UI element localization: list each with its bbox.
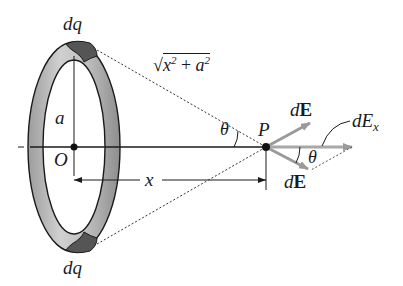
label-radius-a: a [55, 108, 65, 127]
label-point-P: P [258, 120, 270, 139]
dE-upper-E: E [300, 99, 313, 120]
hypotenuse-bottom [97, 147, 266, 244]
label-dE-lower: dE [284, 172, 306, 191]
label-origin-O: O [54, 150, 68, 169]
dE-lower-E: E [294, 171, 307, 192]
label-hypotenuse: √x2 + a2 [153, 55, 210, 74]
dE-lower-arrow [266, 147, 308, 169]
dE-upper-arrow [266, 123, 310, 147]
label-distance-x: x [145, 170, 153, 189]
label-dEx: dEx [352, 111, 379, 133]
hyp-a-exp: 2 [205, 54, 211, 66]
dEx-leader [322, 121, 350, 146]
theta-arc-left [234, 131, 238, 147]
dE-lower-d: d [284, 171, 294, 192]
origin-point [71, 144, 78, 151]
component-dotted [311, 147, 352, 170]
label-dq-bottom: dq [63, 258, 82, 277]
theta-arc-right [296, 147, 300, 163]
hyp-a: a [196, 55, 205, 75]
hyp-x: x [163, 55, 171, 75]
ring-field-diagram [0, 0, 403, 286]
dEx-d: d [352, 110, 362, 131]
dE-upper-d: d [290, 99, 300, 120]
label-theta-left: θ [220, 120, 229, 138]
hyp-plus: + [176, 55, 195, 75]
sqrt-symbol: √ [153, 55, 163, 75]
label-theta-right: θ [308, 148, 317, 166]
dEx-sub: x [373, 119, 379, 134]
label-dE-upper: dE [290, 100, 312, 119]
point-P [262, 143, 270, 151]
label-dq-top: dq [63, 14, 82, 33]
dEx-E: E [362, 110, 374, 131]
